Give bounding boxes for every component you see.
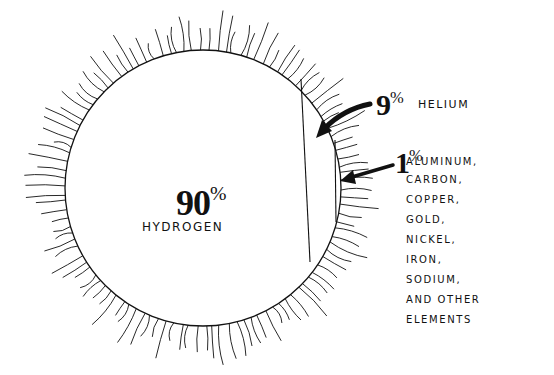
corona-strand — [305, 78, 324, 95]
corona-strand — [318, 265, 337, 278]
corona-strand — [237, 322, 246, 356]
corona-strand — [54, 142, 71, 148]
corona-strand — [56, 233, 73, 239]
corona-strand — [332, 237, 359, 247]
corona-strand — [117, 55, 128, 72]
corona-strand — [44, 117, 77, 132]
corona-strand — [212, 326, 214, 359]
corona-strand — [330, 242, 367, 258]
corona-strand — [91, 56, 114, 83]
corona-strand — [185, 325, 189, 348]
corona-strand — [93, 286, 106, 299]
corona-strand — [113, 35, 133, 69]
corona-strand — [77, 92, 93, 104]
corona-strand — [291, 295, 309, 317]
corona-strand — [341, 188, 372, 190]
corona-strand — [148, 43, 154, 59]
corona-strand — [156, 321, 166, 358]
corona-strand — [37, 167, 66, 171]
corona-strand — [337, 222, 354, 226]
corona-strand — [254, 23, 269, 60]
corona-strand — [270, 50, 279, 67]
corona-strand — [152, 319, 158, 337]
corona-strand — [43, 128, 74, 140]
element-item: IRON, — [406, 250, 480, 270]
corona-strand — [45, 108, 80, 126]
corona-strand — [219, 11, 224, 51]
corona-strand — [36, 200, 66, 203]
corona-strand — [339, 213, 362, 217]
corona-strand — [29, 154, 68, 162]
corona-strand — [53, 227, 70, 232]
element-item: GOLD, — [406, 210, 480, 230]
corona-strand — [26, 185, 66, 186]
element-item: NICKEL, — [406, 230, 480, 250]
helium-percent-value: 9 — [376, 88, 390, 121]
corona-strand — [179, 17, 184, 52]
corona-strand — [247, 33, 255, 57]
corona-strand — [103, 51, 122, 77]
corona-strand — [169, 323, 174, 341]
corona-strand — [100, 291, 112, 304]
corona-strand — [327, 249, 352, 261]
hydrogen-percent: 90% — [176, 182, 225, 224]
corona-strand — [331, 125, 359, 136]
corona-strand — [180, 325, 184, 350]
corona-strand — [52, 218, 68, 222]
corona-strand — [167, 35, 171, 53]
percent-sign: % — [390, 88, 403, 107]
corona-strand — [230, 32, 235, 53]
corona-strand — [207, 326, 208, 351]
corona-strand — [118, 304, 129, 321]
corona-strand — [323, 257, 346, 270]
corona-strand — [52, 256, 83, 274]
corona-strand — [339, 162, 368, 167]
corona-strand — [257, 315, 267, 338]
corona-strand — [38, 145, 70, 153]
corona-strand — [335, 228, 367, 238]
corona-strand — [92, 295, 116, 325]
corona-strand — [279, 303, 290, 319]
corona-strand — [136, 38, 147, 62]
corona-strand — [336, 144, 357, 150]
corona-strand — [341, 197, 369, 199]
element-item: ELEMENTS — [406, 310, 480, 330]
element-item: ALUMINUM, — [406, 152, 480, 172]
corona-strand — [83, 71, 104, 92]
corona-strand — [338, 155, 359, 160]
helium-percent: 9% — [376, 88, 403, 122]
helium-label: HELIUM — [418, 98, 469, 111]
corona-strand — [155, 29, 163, 56]
corona-strand — [218, 325, 223, 365]
corona-strand — [171, 27, 176, 53]
percent-sign: % — [210, 182, 225, 204]
corona-strand — [200, 28, 201, 50]
corona-strand — [278, 45, 295, 72]
hydrogen-percent-value: 90 — [176, 183, 210, 223]
corona-strand — [273, 307, 282, 323]
corona-strand — [266, 311, 281, 341]
corona-strand — [282, 50, 300, 75]
element-item: CARBON, — [406, 170, 480, 190]
corona-strand — [131, 313, 145, 344]
corona-strand — [288, 58, 304, 79]
corona-strand — [189, 21, 192, 51]
corona-strand — [334, 137, 353, 143]
corona-strand — [263, 33, 278, 64]
corona-strand — [61, 107, 83, 120]
corona-strand — [197, 326, 198, 352]
corona-strand — [116, 302, 125, 316]
corona-strand — [229, 324, 236, 359]
corona-strand — [209, 28, 210, 50]
corona-strand — [41, 210, 66, 214]
corona-strand — [130, 48, 139, 66]
corona-strand — [55, 246, 77, 257]
element-item: SODIUM, — [406, 270, 480, 290]
element-item: AND OTHER — [406, 290, 480, 310]
corona-strand — [26, 195, 65, 197]
corona-strand — [63, 262, 87, 277]
other-elements-list: ALUMINUM, CARBON, COPPER, GOLD, NICKEL, … — [382, 152, 480, 330]
corona-strand — [44, 239, 74, 251]
corona-strand — [340, 204, 379, 209]
corona-strand — [244, 320, 252, 346]
